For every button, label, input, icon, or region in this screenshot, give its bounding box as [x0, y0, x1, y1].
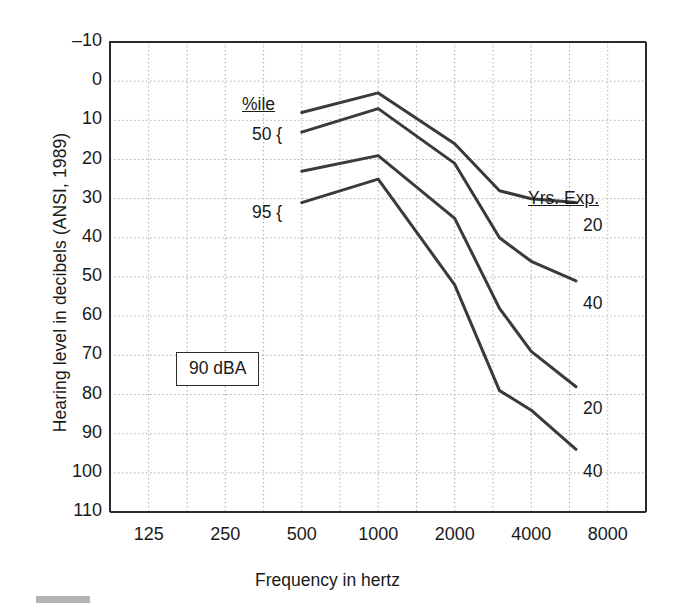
y-tick-label: 10	[20, 108, 102, 129]
exposure-level-box: 90 dBA	[176, 352, 259, 386]
y-tick-label: 110	[20, 500, 102, 521]
percentile-header: %ile	[242, 94, 275, 115]
end-label-95pct-40yrs: 40	[583, 461, 602, 482]
page-artifact-smudge	[36, 596, 90, 603]
y-tick-label: 50	[20, 265, 102, 286]
y-tick-label: 30	[20, 187, 102, 208]
y-tick-label: 0	[20, 69, 102, 90]
y-tick-label: 20	[20, 148, 102, 169]
y-tick-label: 90	[20, 422, 102, 443]
y-tick-label: 80	[20, 383, 102, 404]
x-tick-label: 8000	[563, 524, 653, 545]
percentile-95-label: 95 {	[252, 202, 282, 223]
data-series-layer	[302, 93, 576, 449]
percentile-50-label: 50 {	[252, 124, 282, 145]
y-tick-label: 40	[20, 226, 102, 247]
y-tick-label: 100	[20, 461, 102, 482]
y-tick-label: –10	[20, 30, 102, 51]
y-tick-label: 60	[20, 304, 102, 325]
end-label-50pct-20yrs: 20	[583, 215, 602, 236]
end-label-95pct-20yrs: 20	[583, 398, 602, 419]
series-line-4	[302, 179, 576, 449]
series-line-1	[302, 93, 576, 203]
years-exposure-header: Yrs. Exp.	[528, 188, 599, 209]
end-label-50pct-40yrs: 40	[583, 293, 602, 314]
y-tick-label: 70	[20, 343, 102, 364]
x-axis-title: Frequency in hertz	[255, 570, 400, 591]
